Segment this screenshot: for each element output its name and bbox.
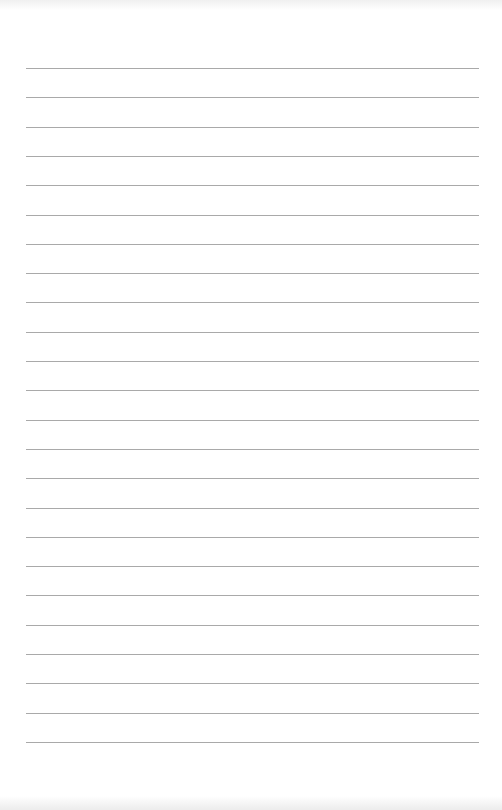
ruled-line — [26, 273, 479, 274]
ruled-line — [26, 420, 479, 421]
ruled-line — [26, 361, 479, 362]
ruled-lines — [0, 0, 502, 810]
ruled-line — [26, 390, 479, 391]
ruled-line — [26, 713, 479, 714]
ruled-line — [26, 302, 479, 303]
bottom-edge-shadow — [0, 796, 502, 810]
ruled-line — [26, 97, 479, 98]
ruled-line — [26, 185, 479, 186]
ruled-line — [26, 68, 479, 69]
ruled-line — [26, 566, 479, 567]
ruled-line — [26, 537, 479, 538]
ruled-line — [26, 127, 479, 128]
ruled-line — [26, 449, 479, 450]
ruled-line — [26, 683, 479, 684]
ruled-line — [26, 215, 479, 216]
ruled-line — [26, 332, 479, 333]
ruled-line — [26, 244, 479, 245]
ruled-line — [26, 742, 479, 743]
ruled-line — [26, 508, 479, 509]
ruled-line — [26, 478, 479, 479]
ruled-line — [26, 654, 479, 655]
ruled-line — [26, 156, 479, 157]
ruled-line — [26, 595, 479, 596]
ruled-line — [26, 625, 479, 626]
